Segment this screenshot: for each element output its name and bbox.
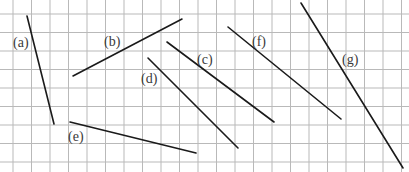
segment-b [73,19,182,76]
segment-c [167,42,274,122]
grid [0,0,409,172]
segment-label-g: (g) [342,52,359,68]
segment-label-d: (d) [141,71,158,87]
segment-label-b: (b) [104,34,121,50]
segment-label-f: (f) [252,34,266,50]
segment-label-a: (a) [13,35,29,51]
segment-e [70,122,196,153]
segment-label-e: (e) [68,129,84,145]
line-segment-grid-diagram: (a)(b)(c)(d)(e)(f)(g) [0,0,409,172]
segment-label-c: (c) [197,52,213,68]
